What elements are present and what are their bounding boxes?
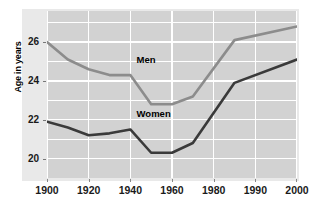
x-tick-label: 1900: [27, 184, 67, 196]
x-tick-mark: [214, 179, 215, 182]
x-tick-label: 2000: [277, 184, 317, 196]
y-tick-label: 20: [13, 153, 39, 164]
x-tick-label: 1980: [194, 184, 234, 196]
y-tick-mark: [43, 159, 46, 160]
line-chart-figure: Age in years 26242220 190019201940196019…: [0, 0, 320, 209]
y-tick-label: 26: [13, 36, 39, 47]
y-tick-mark: [43, 120, 46, 121]
x-tick-label: 1940: [110, 184, 150, 196]
y-axis-title: Age in years: [13, 19, 23, 115]
y-tick-label: 22: [13, 114, 39, 125]
y-tick-label: 24: [13, 75, 39, 86]
x-tick-mark: [47, 179, 48, 182]
x-tick-mark: [130, 179, 131, 182]
x-tick-label: 1920: [69, 184, 109, 196]
series-label-women: Women: [137, 108, 171, 119]
x-tick-mark: [296, 179, 297, 182]
plot-area: [47, 11, 297, 178]
y-tick-mark: [43, 42, 46, 43]
series-label-men: Men: [137, 54, 156, 65]
x-tick-mark: [255, 179, 256, 182]
x-tick-mark: [89, 179, 90, 182]
x-tick-label: 1960: [152, 184, 192, 196]
x-tick-label: 1990: [235, 184, 275, 196]
plot-svg: [47, 11, 297, 178]
x-tick-mark: [172, 179, 173, 182]
y-tick-mark: [43, 81, 46, 82]
